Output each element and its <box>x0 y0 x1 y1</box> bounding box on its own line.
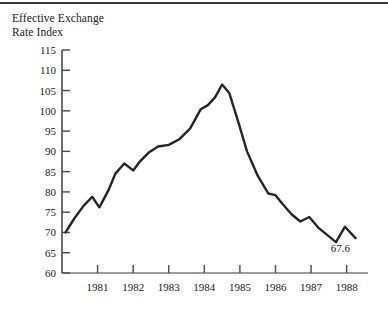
y-axis-ticks <box>62 50 70 273</box>
x-tick-label: 1982 <box>113 281 153 293</box>
y-tick-label: 115 <box>22 44 56 56</box>
y-tick-label: 80 <box>22 186 56 198</box>
chart-axes <box>62 50 368 273</box>
x-axis-ticks <box>98 265 347 273</box>
y-tick-label: 85 <box>22 166 56 178</box>
end-value-annotation: 67.6 <box>331 242 350 254</box>
y-tick-label: 70 <box>22 226 56 238</box>
chart-plot-area <box>0 0 388 318</box>
y-tick-label: 95 <box>22 125 56 137</box>
x-tick-label: 1987 <box>291 281 331 293</box>
data-series-line <box>66 84 356 242</box>
x-tick-label: 1983 <box>149 281 189 293</box>
x-tick-label: 1986 <box>255 281 295 293</box>
y-tick-label: 60 <box>22 267 56 279</box>
x-tick-label: 1984 <box>184 281 224 293</box>
x-tick-label: 1985 <box>220 281 260 293</box>
y-tick-label: 75 <box>22 206 56 218</box>
x-tick-label: 1988 <box>327 281 367 293</box>
y-tick-label: 100 <box>22 105 56 117</box>
y-tick-label: 110 <box>22 64 56 76</box>
y-tick-label: 105 <box>22 85 56 97</box>
y-tick-label: 90 <box>22 145 56 157</box>
y-tick-label: 65 <box>22 247 56 259</box>
x-tick-label: 1981 <box>78 281 118 293</box>
